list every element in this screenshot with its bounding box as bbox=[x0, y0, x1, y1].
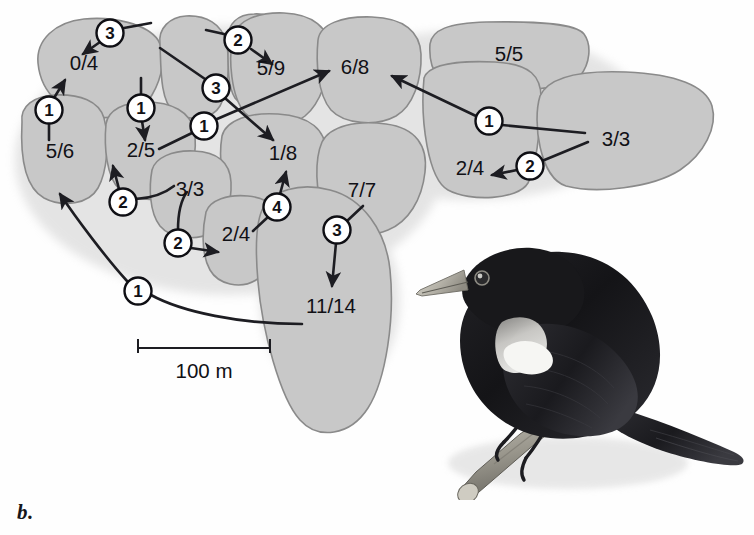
marker-value: 1 bbox=[484, 112, 493, 131]
territory-label: 3/3 bbox=[176, 177, 205, 200]
red-winged-blackbird-illustration bbox=[398, 238, 754, 500]
territory-label: 7/7 bbox=[348, 178, 377, 201]
figure-panel-b: 0/45/62/55/96/85/53/32/41/83/32/47/711/1… bbox=[0, 0, 754, 535]
female-count-marker[interactable]: 1 bbox=[36, 97, 63, 124]
marker-value: 2 bbox=[233, 31, 242, 50]
female-count-marker[interactable]: 1 bbox=[128, 95, 155, 122]
bird-eye bbox=[475, 271, 489, 285]
female-count-marker[interactable]: 1 bbox=[191, 113, 218, 140]
female-count-marker[interactable]: 4 bbox=[264, 194, 291, 221]
territory-label: 2/4 bbox=[456, 156, 485, 179]
territory-label: 2/5 bbox=[127, 138, 156, 161]
marker-value: 3 bbox=[105, 24, 114, 43]
territory-label: 2/4 bbox=[222, 222, 251, 245]
territory-label: 5/5 bbox=[495, 42, 524, 65]
marker-value: 2 bbox=[525, 157, 534, 176]
marker-value: 1 bbox=[199, 117, 208, 136]
marker-value: 1 bbox=[136, 99, 145, 118]
territory-label: 1/8 bbox=[269, 141, 298, 164]
territory-label: 6/8 bbox=[341, 55, 370, 78]
scale-bar-line bbox=[138, 340, 270, 352]
marker-value: 1 bbox=[44, 101, 53, 120]
female-count-marker[interactable]: 3 bbox=[97, 20, 124, 47]
female-count-marker[interactable]: 3 bbox=[324, 217, 351, 244]
territory-shape-narrow-a[interactable] bbox=[160, 16, 229, 118]
territory-label: 0/4 bbox=[70, 51, 99, 74]
female-count-marker[interactable]: 1 bbox=[125, 278, 152, 305]
female-count-marker[interactable]: 3 bbox=[203, 75, 230, 102]
territory-label: 11/14 bbox=[306, 294, 356, 317]
marker-value: 3 bbox=[332, 221, 341, 240]
female-count-marker[interactable]: 2 bbox=[165, 230, 192, 257]
marker-value: 1 bbox=[133, 282, 142, 301]
female-count-marker[interactable]: 2 bbox=[225, 27, 252, 54]
marker-value: 2 bbox=[173, 234, 182, 253]
marker-value: 3 bbox=[211, 79, 220, 98]
female-count-marker[interactable]: 2 bbox=[110, 189, 137, 216]
panel-label: b. bbox=[17, 500, 34, 525]
scale-bar-label: 100 m bbox=[176, 359, 233, 382]
marker-value: 4 bbox=[272, 198, 282, 217]
territory-label: 5/9 bbox=[257, 56, 286, 79]
scale-bar: 100 m bbox=[138, 340, 270, 382]
territory-label: 3/3 bbox=[602, 127, 631, 150]
marker-value: 2 bbox=[118, 193, 127, 212]
female-count-marker[interactable]: 2 bbox=[517, 153, 544, 180]
female-count-marker[interactable]: 1 bbox=[476, 108, 503, 135]
territory-label: 5/6 bbox=[46, 139, 75, 162]
